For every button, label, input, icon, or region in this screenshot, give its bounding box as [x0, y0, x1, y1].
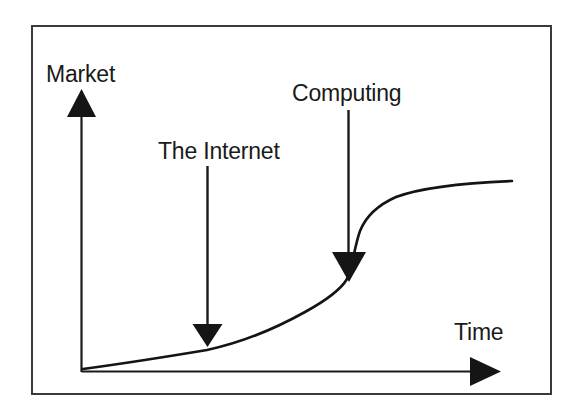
x-axis-title: Time: [454, 319, 503, 345]
annotation-label-the-internet: The Internet: [158, 138, 280, 164]
y-axis-title: Market: [46, 61, 116, 87]
s-curve-figure: The Internet Computing Market Time: [0, 0, 574, 419]
annotation-label-computing: Computing: [292, 80, 401, 106]
diagram-canvas: The Internet Computing Market Time: [0, 0, 574, 419]
